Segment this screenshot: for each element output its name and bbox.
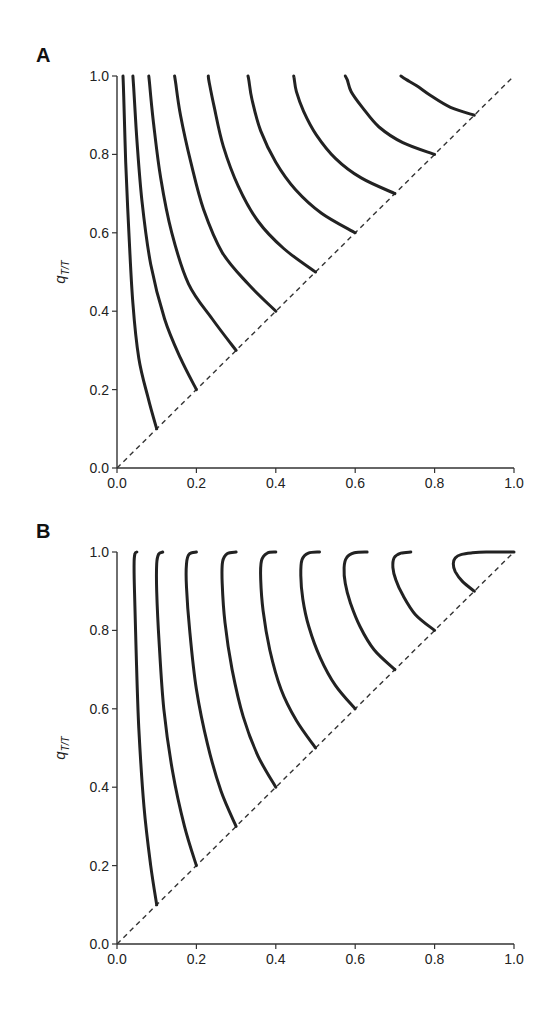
panel-letter: A (36, 44, 50, 66)
data-curve (175, 76, 276, 311)
data-curve (222, 552, 276, 787)
y-tick-label: 0.2 (90, 382, 110, 398)
data-curve (123, 76, 157, 429)
y-tick-label: 0.0 (90, 936, 110, 952)
data-curve (133, 76, 197, 390)
y-tick-label: 1.0 (90, 68, 110, 84)
data-curve (294, 76, 395, 194)
y-tick-label: 0.6 (90, 701, 110, 717)
y-tick-label: 0.4 (90, 779, 110, 795)
y-tick-label: 0.8 (90, 622, 110, 638)
data-curve (208, 76, 315, 272)
x-tick-label: 1.0 (504, 951, 524, 966)
data-curve (301, 552, 355, 709)
data-curve (393, 552, 435, 630)
panel-a-plot: A0.00.20.40.60.81.00.00.20.40.60.81.0ρTq… (0, 0, 555, 490)
y-tick-label: 0.2 (90, 858, 110, 874)
data-curve (156, 552, 196, 866)
x-tick-label: 0.4 (266, 951, 286, 966)
x-tick-label: 0.0 (107, 951, 127, 966)
y-axis-label: qT/T (51, 735, 71, 759)
x-tick-label: 0.8 (425, 951, 445, 966)
panel-letter: B (36, 520, 50, 542)
x-tick-label: 0.6 (345, 951, 365, 966)
data-curve (344, 552, 395, 670)
data-curve (134, 552, 157, 905)
y-axis-label: qT/T (51, 259, 71, 283)
data-curve (261, 552, 316, 748)
data-curve (401, 76, 474, 115)
panel-b: B0.00.20.40.60.81.00.00.20.40.60.81.0ρTq… (0, 476, 555, 966)
data-curve (248, 76, 355, 233)
panel-a: A0.00.20.40.60.81.00.00.20.40.60.81.0ρTq… (0, 0, 555, 490)
data-curve (186, 552, 236, 826)
y-tick-label: 0.4 (90, 303, 110, 319)
y-tick-label: 1.0 (90, 544, 110, 560)
y-tick-label: 0.0 (90, 460, 110, 476)
x-tick-label: 0.2 (187, 951, 207, 966)
data-curve (453, 552, 514, 591)
y-tick-label: 0.8 (90, 146, 110, 162)
y-tick-label: 0.6 (90, 225, 110, 241)
panel-b-plot: B0.00.20.40.60.81.00.00.20.40.60.81.0ρTq… (0, 476, 555, 966)
